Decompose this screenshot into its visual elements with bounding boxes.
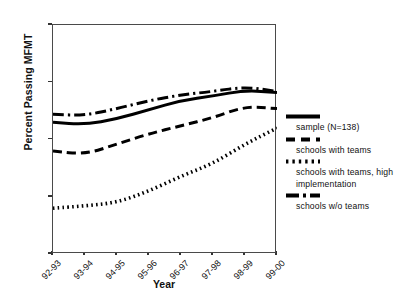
legend-line-swatch bbox=[286, 112, 398, 121]
legend-entry: schools with teams bbox=[286, 135, 398, 157]
legend-line-swatch bbox=[286, 157, 398, 166]
legend-line-swatch bbox=[286, 191, 398, 200]
legend-line-swatch bbox=[286, 135, 398, 144]
legend-label: schools with teams, high implementation bbox=[286, 167, 398, 190]
legend-entry: sample (N=138) bbox=[286, 112, 398, 134]
legend-entry: schools with teams, high implementation bbox=[286, 157, 398, 190]
series-canvas bbox=[53, 25, 277, 254]
legend-label: sample (N=138) bbox=[286, 122, 398, 134]
y-axis-title: Percent Passing MFMT bbox=[22, 12, 34, 172]
plot-area bbox=[52, 24, 276, 253]
legend-entry: schools w/o teams bbox=[286, 191, 398, 213]
legend-label: schools w/o teams bbox=[286, 201, 398, 213]
plot-lines bbox=[53, 25, 275, 252]
x-axis-title: Year bbox=[52, 278, 276, 290]
chart-figure: Percent Passing MFMT 60708090100 92-9393… bbox=[0, 0, 398, 299]
chart-legend: sample (N=138)schools with teamsschools … bbox=[286, 112, 398, 214]
series-line bbox=[53, 128, 277, 208]
legend-label: schools with teams bbox=[286, 145, 398, 157]
